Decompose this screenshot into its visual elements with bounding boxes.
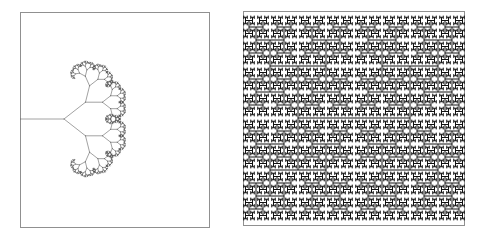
fractal-figure xyxy=(0,0,478,239)
left-panel-binary-tree xyxy=(20,12,210,228)
binary-tree-svg xyxy=(20,12,210,228)
left-panel-border xyxy=(21,13,210,228)
right-panel-h-tree xyxy=(243,11,465,226)
h-tree-svg xyxy=(243,11,465,226)
